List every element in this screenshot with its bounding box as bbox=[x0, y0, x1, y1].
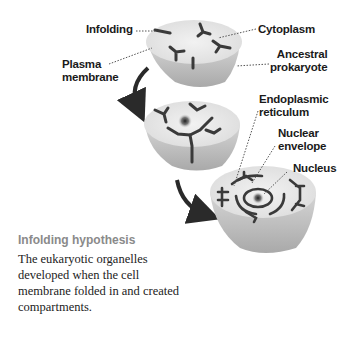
caption-title: Infolding hypothesis bbox=[18, 233, 135, 247]
label-endoplasmic-reticulum: Endoplasmic reticulum bbox=[259, 93, 328, 119]
label-ancestral-prokaryote-line1: Ancestral bbox=[270, 48, 327, 61]
cell-stage-3 bbox=[210, 166, 316, 253]
cell-stage-1 bbox=[146, 20, 242, 87]
label-ancestral-prokaryote-line2: prokaryote bbox=[270, 61, 327, 74]
label-ancestral-prokaryote: Ancestral prokaryote bbox=[270, 48, 327, 74]
label-nuclear-envelope-line2: envelope bbox=[278, 140, 326, 153]
label-nuclear-envelope: Nuclear envelope bbox=[278, 127, 326, 153]
arrow-2-icon bbox=[177, 180, 205, 214]
label-nucleus: Nucleus bbox=[293, 162, 336, 175]
label-plasma-membrane-line2: membrane bbox=[62, 71, 119, 84]
label-cytoplasm: Cytoplasm bbox=[258, 23, 315, 36]
caption-body: The eukaryotic organelles developed when… bbox=[18, 251, 188, 315]
label-plasma-membrane: Plasma membrane bbox=[62, 58, 119, 84]
label-endoplasmic-reticulum-line1: Endoplasmic bbox=[259, 93, 328, 106]
label-endoplasmic-reticulum-line2: reticulum bbox=[259, 106, 328, 119]
label-infolding: Infolding bbox=[86, 23, 133, 36]
label-plasma-membrane-line1: Plasma bbox=[62, 58, 119, 71]
cell-stage-2 bbox=[144, 101, 240, 171]
label-nuclear-envelope-line1: Nuclear bbox=[278, 127, 326, 140]
arrow-1-icon bbox=[135, 68, 148, 108]
